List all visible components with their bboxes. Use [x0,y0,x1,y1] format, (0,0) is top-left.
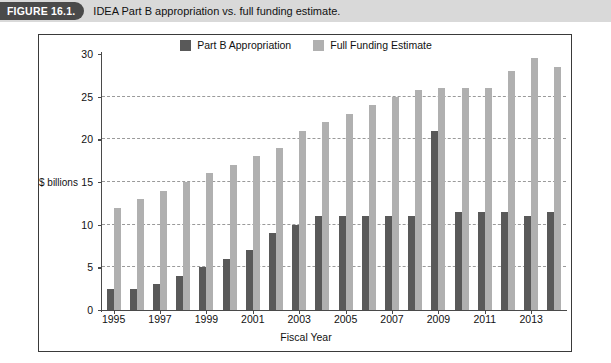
figure-number-tag: FIGURE 16.1. [0,2,84,20]
bar-part-b-appropriation [269,233,276,310]
bar-full-funding-estimate [554,67,561,310]
figure-caption-text: IDEA Part B appropriation vs. full fundi… [93,5,340,17]
bar-part-b-appropriation [408,216,415,310]
bar-part-b-appropriation [292,225,299,310]
bar-full-funding-estimate [253,156,260,310]
bar-full-funding-estimate [415,90,422,310]
x-tick-label: 2007 [380,313,403,325]
x-tick-label: 1997 [148,313,171,325]
bar-part-b-appropriation [362,216,369,310]
bar-full-funding-estimate [508,71,515,310]
bar-full-funding-estimate [531,58,538,310]
x-tick-label: 2001 [241,313,264,325]
bar-part-b-appropriation [315,216,322,310]
x-tick-label: 2013 [520,313,543,325]
x-tick-label: 1999 [195,313,218,325]
chart-container: Part B AppropriationFull Funding Estimat… [38,34,572,352]
bar-group [404,54,427,310]
bar-part-b-appropriation [547,212,554,310]
bar-group [218,54,241,310]
bar-full-funding-estimate [369,105,376,310]
bar-full-funding-estimate [438,88,445,310]
y-tick-mark [98,182,102,183]
bar-group [311,54,334,310]
plot-area [102,54,566,310]
bar-part-b-appropriation [107,289,114,310]
bar-full-funding-estimate [137,199,144,310]
bar-full-funding-estimate [276,148,283,310]
bar-full-funding-estimate [322,122,329,310]
bar-group [334,54,357,310]
bar-full-funding-estimate [160,191,167,310]
bar-group [241,54,264,310]
bar-group [264,54,287,310]
bar-part-b-appropriation [431,131,438,310]
bar-group [543,54,566,310]
bar-part-b-appropriation [223,259,230,310]
x-tick-label: 2009 [427,313,450,325]
y-tick-mark [98,97,102,98]
y-tick-label: 0 [49,304,93,316]
bar-group [427,54,450,310]
x-tick-label: 2011 [474,313,497,325]
x-tick-label: 1995 [102,313,125,325]
y-tick-label: 30 [49,48,93,60]
bar-group [102,54,125,310]
figure-caption-band: FIGURE 16.1. IDEA Part B appropriation v… [0,0,611,22]
y-axis-title: $ billions [39,177,78,188]
bar-group [172,54,195,310]
bar-group [125,54,148,310]
bar-part-b-appropriation [130,289,137,310]
bar-part-b-appropriation [524,216,531,310]
bar-full-funding-estimate [485,88,492,310]
bar-part-b-appropriation [246,250,253,310]
bar-group [148,54,171,310]
y-tick-mark [98,225,102,226]
bar-full-funding-estimate [462,88,469,310]
y-tick-label: 25 [49,91,93,103]
bar-part-b-appropriation [153,284,160,310]
x-tick-label: 2005 [334,313,357,325]
bar-full-funding-estimate [392,97,399,310]
y-tick-label: 20 [49,133,93,145]
bar-group [520,54,543,310]
bar-part-b-appropriation [478,212,485,310]
y-tick-mark [98,267,102,268]
x-tick-label: 2003 [288,313,311,325]
bar-part-b-appropriation [339,216,346,310]
bar-full-funding-estimate [230,165,237,310]
bar-group [195,54,218,310]
y-tick-mark [98,310,102,311]
bar-full-funding-estimate [114,208,121,310]
bar-group [288,54,311,310]
bar-group [496,54,519,310]
bar-group [357,54,380,310]
x-axis-tick-labels: 1995199719992001200320052007200920112013 [102,313,566,329]
plot-wrapper: 051015202530 199519971999200120032005200… [39,35,573,353]
bar-group [450,54,473,310]
bar-part-b-appropriation [455,212,462,310]
bar-part-b-appropriation [501,212,508,310]
x-axis-title: Fiscal Year [39,331,573,343]
y-tick-label: 5 [49,261,93,273]
bar-full-funding-estimate [206,173,213,310]
y-tick-label: 10 [49,219,93,231]
bar-group [473,54,496,310]
y-tick-mark [98,139,102,140]
bar-full-funding-estimate [183,182,190,310]
y-tick-mark [98,54,102,55]
bar-part-b-appropriation [385,216,392,310]
bar-part-b-appropriation [176,276,183,310]
bar-part-b-appropriation [199,267,206,310]
bar-full-funding-estimate [346,114,353,310]
bar-full-funding-estimate [299,131,306,310]
bar-group [380,54,403,310]
